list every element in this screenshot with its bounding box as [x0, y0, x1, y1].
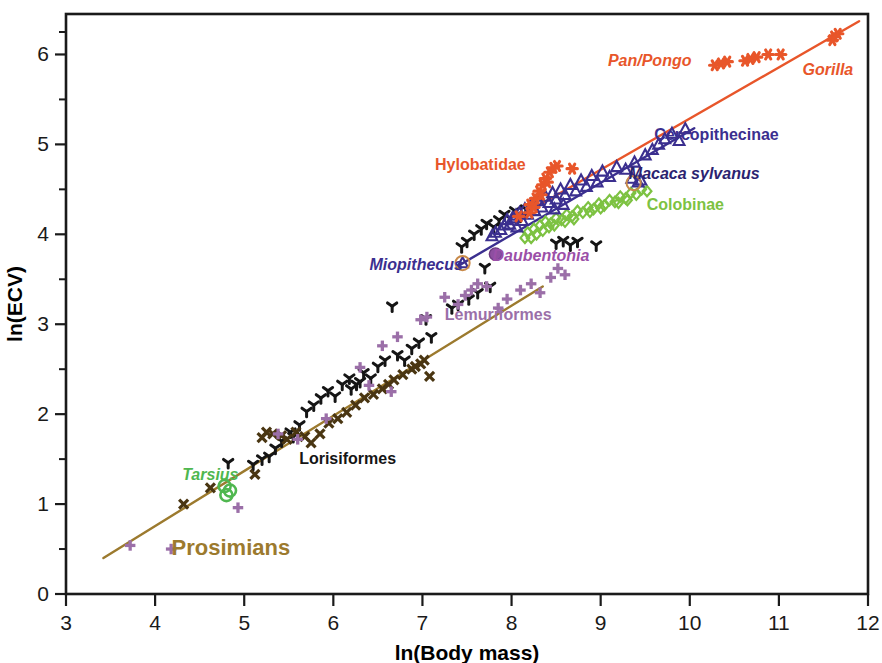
y-axis-tick-label: 1 [37, 492, 49, 515]
y-axis-tick-label: 4 [37, 222, 49, 245]
x-axis-tick-label: 3 [60, 611, 72, 634]
y-axis-tick-label: 2 [37, 402, 49, 425]
x-axis-title: ln(Body mass) [395, 641, 540, 663]
x-axis-tick-label: 10 [678, 611, 701, 634]
series-tarsius [219, 480, 236, 501]
x-axis-tick-label: 5 [238, 611, 250, 634]
y-axis-tick-label: 0 [37, 582, 49, 605]
marker-triangle [581, 181, 592, 191]
x-axis-tick-label: 7 [417, 611, 429, 634]
x-axis-tick-label: 8 [506, 611, 518, 634]
annotation-tarsius: Tarsius [182, 466, 238, 483]
trend-line-prosimian [103, 286, 542, 558]
annotation-macaca-sylvanus: Macaca sylvanus [629, 165, 760, 182]
x-axis-tick-label: 11 [768, 611, 790, 634]
y-axis-tick-label: 5 [37, 132, 49, 155]
annotation-pan-pongo: Pan/Pongo [608, 52, 692, 69]
x-axis-tick-label: 9 [595, 611, 607, 634]
annotations-group: Pan/PongoGorillaCercopithecinaeMacaca sy… [172, 52, 854, 560]
y-axis-tick-label: 6 [37, 42, 49, 65]
scatter-plot: 01234563456789101112ln(Body mass)ln(ECV)… [0, 0, 882, 663]
marker-diamond [521, 233, 530, 243]
annotation-colobinae: Colobinae [647, 196, 724, 213]
annotation-lorisiformes: Lorisiformes [299, 450, 396, 467]
x-axis-tick-label: 4 [149, 611, 161, 634]
annotation-hylobatidae: Hylobatidae [435, 156, 526, 173]
annotation-lemuriformes: Lemuriformes [445, 306, 552, 323]
annotation-daubentonia: Daubentonia [493, 247, 590, 264]
annotation-prosimians: Prosimians [172, 535, 291, 560]
series-lorisiformes [224, 206, 601, 470]
x-axis-tick-label: 12 [856, 611, 879, 634]
y-axis-title: ln(ECV) [3, 266, 26, 342]
figure-container: 01234563456789101112ln(Body mass)ln(ECV)… [0, 0, 882, 663]
annotation-miopithecus: Miopithecus [370, 256, 463, 273]
x-axis-tick-label: 6 [327, 611, 339, 634]
annotation-cercopithecinae: Cercopithecinae [654, 126, 779, 143]
annotation-gorilla: Gorilla [803, 61, 854, 78]
y-axis-tick-label: 3 [37, 312, 49, 335]
